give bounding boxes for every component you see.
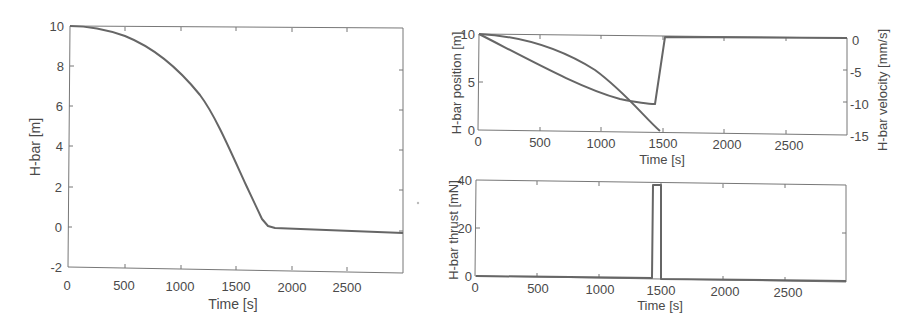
y-ticks (479, 70, 847, 102)
x-tick-label: 0 (474, 134, 481, 149)
y-tick-label: -2 (50, 260, 62, 275)
x-tick-label: 1500 (649, 136, 678, 151)
x-tick-label: 2000 (711, 284, 740, 299)
x-tick-label: 1500 (647, 283, 676, 298)
x-ticks (125, 27, 347, 271)
x-tick-label: 500 (529, 135, 551, 150)
y-right-tick-label: -5 (850, 65, 862, 80)
x-tick-label: 1500 (222, 279, 251, 294)
y-tick-label: 8 (57, 59, 64, 74)
y-axis-label: H-bar thrust [mN] (446, 180, 461, 280)
y-right-tick-label: -10 (850, 97, 869, 112)
y-axis-label: H-bar [m] (27, 118, 43, 176)
y-tick-label: 10 (50, 19, 64, 34)
x-tick-label: 2500 (333, 280, 362, 295)
thrust-curve (476, 185, 846, 281)
y-tick-label: 5 (468, 75, 475, 90)
y-tick-label: 0 (55, 220, 62, 235)
figure: 10 8 6 4 2 0 -2 0 500 1000 1500 2000 250… (0, 0, 913, 335)
scan-artifact-dot (417, 202, 419, 204)
x-axis-label: Time [s] (208, 296, 257, 312)
x-tick-label: 500 (113, 278, 135, 293)
x-tick-label: 2000 (713, 137, 742, 152)
y-right-axis-label: H-bar velocity [mm/s] (875, 29, 890, 151)
x-tick-label: 0 (63, 278, 70, 293)
x-tick-label: 1000 (166, 279, 195, 294)
velocity-curve (479, 34, 847, 104)
plot-frame (68, 26, 403, 273)
x-tick-label: 1000 (587, 136, 616, 151)
y-tick-label: 4 (56, 139, 63, 154)
x-tick-label: 2500 (774, 285, 803, 300)
x-tick-label: 2000 (278, 280, 307, 295)
y-right-tick-label: -15 (850, 129, 869, 144)
y-axis-label: H-bar position [m] (449, 32, 464, 135)
x-tick-label: 500 (527, 281, 549, 296)
y-right-tick-label: 0 (852, 33, 859, 48)
y-ticks (68, 66, 403, 231)
y-tick-label: 6 (56, 99, 63, 114)
y-tick-label: 2 (55, 180, 62, 195)
x-tick-label: 2500 (775, 138, 804, 153)
hbar-curve (70, 26, 403, 233)
x-tick-label: 1000 (586, 282, 615, 297)
chart-position-velocity: 10 5 0 0 -5 -10 -15 0 500 1000 1500 2000… (449, 27, 890, 167)
x-axis-label: Time [s] (639, 152, 685, 167)
x-tick-label: 0 (471, 280, 478, 295)
chart-thrust: 40 20 0 0 500 1000 1500 2000 2500 Time [… (446, 173, 846, 313)
chart-hbar: 10 8 6 4 2 0 -2 0 500 1000 1500 2000 250… (27, 19, 403, 312)
x-axis-label: Time [s] (637, 298, 683, 313)
